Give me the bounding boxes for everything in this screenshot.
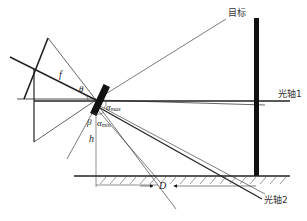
optical-axis-1-lines — [34, 100, 290, 105]
optical-geometry-diagram: 目标 光轴1 光轴2 f θ αmax αmin β h D — [0, 0, 307, 221]
target-bar — [254, 18, 259, 176]
beta-label: β — [86, 117, 92, 127]
focal-length-label: f — [59, 69, 63, 80]
alpha-max-label: αmax — [106, 102, 121, 112]
theta-label: θ — [79, 84, 84, 94]
ground — [74, 176, 290, 185]
optical-axis-1-label: 光轴1 — [278, 88, 302, 99]
target-line — [96, 19, 226, 100]
optical-axis-2-label: 光轴2 — [264, 194, 288, 205]
distance-label: D — [158, 180, 167, 191]
height-label: h — [89, 133, 94, 144]
target-label: 目标 — [228, 7, 246, 18]
